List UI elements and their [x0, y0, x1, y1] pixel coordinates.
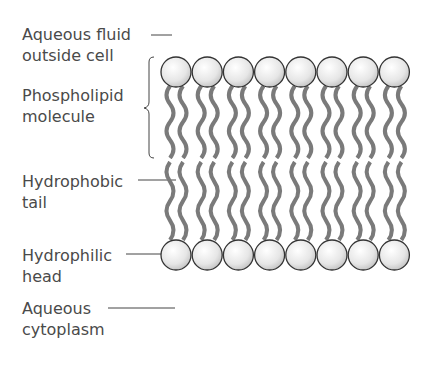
head-icon: [286, 57, 316, 87]
head-icon: [223, 240, 253, 270]
head-icon: [161, 240, 191, 270]
head-icon: [161, 57, 191, 87]
head-icon: [255, 57, 285, 87]
head-icon: [379, 240, 409, 270]
lower-tails: [167, 162, 405, 240]
head-icon: [317, 57, 347, 87]
head-icon: [348, 240, 378, 270]
lower-heads: [161, 240, 409, 270]
head-icon: [286, 240, 316, 270]
upper-heads: [161, 57, 409, 87]
upper-tails: [167, 86, 405, 158]
brace-icon: [144, 57, 154, 158]
head-icon: [317, 240, 347, 270]
bilayer-diagram: [0, 0, 433, 367]
head-icon: [255, 240, 285, 270]
head-icon: [192, 57, 222, 87]
head-icon: [379, 57, 409, 87]
head-icon: [192, 240, 222, 270]
head-icon: [348, 57, 378, 87]
head-icon: [223, 57, 253, 87]
